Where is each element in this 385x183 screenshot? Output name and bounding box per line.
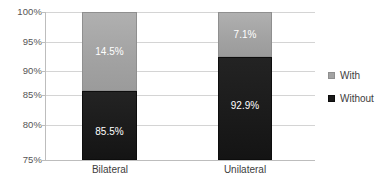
legend-swatch-icon-without	[328, 95, 335, 102]
bar-unilateral[interactable]: 7.1% 92.9%	[218, 12, 272, 160]
bar-label-unilateral-without: 92.9%	[219, 100, 271, 111]
y-axis-tick-label-95: 95%	[2, 37, 42, 47]
bar-label-bilateral-with: 14.5%	[83, 46, 136, 57]
stacked-bar-chart: 100% 95% 90% 85% 80% 75% 14.5% 85.5%	[0, 0, 385, 183]
y-axis-tick-label-80: 80%	[2, 120, 42, 130]
bar-segment-unilateral-with[interactable]: 7.1%	[218, 12, 272, 57]
bar-bilateral[interactable]: 14.5% 85.5%	[82, 12, 137, 160]
legend-label-without: Without	[340, 93, 374, 104]
y-axis-tick-label-90: 90%	[2, 66, 42, 76]
bar-segment-unilateral-without[interactable]: 92.9%	[218, 57, 272, 160]
y-axis-tick-label-75: 75%	[2, 155, 42, 165]
plot-area: 14.5% 85.5% 7.1% 92.9%	[45, 12, 315, 160]
x-axis-line	[45, 160, 315, 161]
x-axis-tick-label-bilateral: Bilateral	[75, 164, 145, 176]
chart-legend: With Without	[328, 68, 385, 114]
legend-item-with[interactable]: With	[328, 68, 385, 83]
bar-segment-bilateral-with[interactable]: 14.5%	[82, 12, 137, 91]
legend-item-without[interactable]: Without	[328, 91, 385, 106]
y-axis-tick-label-85: 85%	[2, 90, 42, 100]
y-axis-tick-label-100: 100%	[2, 7, 42, 17]
legend-swatch-icon-with	[328, 72, 335, 79]
y-axis-line	[45, 12, 46, 161]
bar-segment-bilateral-without[interactable]: 85.5%	[82, 91, 137, 160]
x-axis-tick-label-unilateral: Unilateral	[210, 164, 280, 176]
legend-label-with: With	[340, 70, 360, 81]
bar-label-unilateral-with: 7.1%	[219, 29, 271, 40]
bar-label-bilateral-without: 85.5%	[83, 126, 136, 137]
